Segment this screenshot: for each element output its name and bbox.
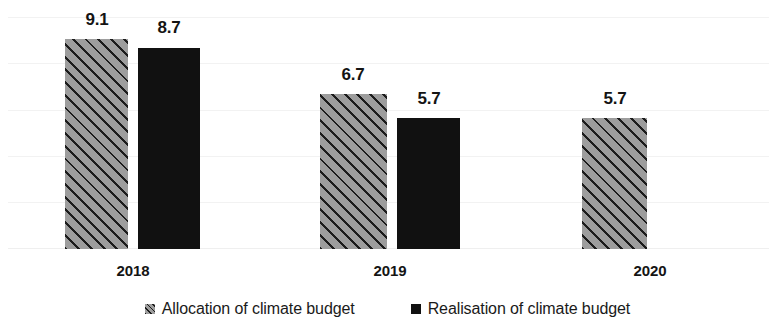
bar-2018-realisation[interactable] <box>138 48 200 249</box>
data-label-2019-allocation: 6.7 <box>318 65 388 85</box>
hatched-square-icon <box>145 304 155 314</box>
bar-2019-allocation[interactable] <box>320 94 387 249</box>
legend-item-allocation[interactable]: Allocation of climate budget <box>145 300 355 318</box>
legend-item-label: Realisation of climate budget <box>428 300 631 318</box>
filled-square-icon <box>411 304 421 314</box>
legend-item-label: Allocation of climate budget <box>162 300 355 318</box>
x-axis-label-2019: 2019 <box>355 262 425 279</box>
bar-2019-realisation[interactable] <box>397 118 460 249</box>
data-label-2018-allocation: 9.1 <box>62 10 132 30</box>
data-label-2020-allocation: 5.7 <box>580 89 650 109</box>
x-axis-label-2020: 2020 <box>615 262 685 279</box>
plot-area: 9.1 8.7 6.7 5.7 5.7 <box>0 0 775 250</box>
x-axis-label-2018: 2018 <box>98 262 168 279</box>
bar-chart: 9.1 8.7 6.7 5.7 5.7 2018 2019 2020 Alloc… <box>0 0 775 331</box>
data-label-2019-realisation: 5.7 <box>394 89 464 109</box>
legend-item-realisation[interactable]: Realisation of climate budget <box>411 300 631 318</box>
data-label-2018-realisation: 8.7 <box>134 18 204 38</box>
chart-legend: Allocation of climate budget Realisation… <box>0 300 775 318</box>
bar-2018-allocation[interactable] <box>65 39 128 249</box>
bars-layer <box>0 0 775 249</box>
bar-2020-allocation[interactable] <box>582 118 647 249</box>
